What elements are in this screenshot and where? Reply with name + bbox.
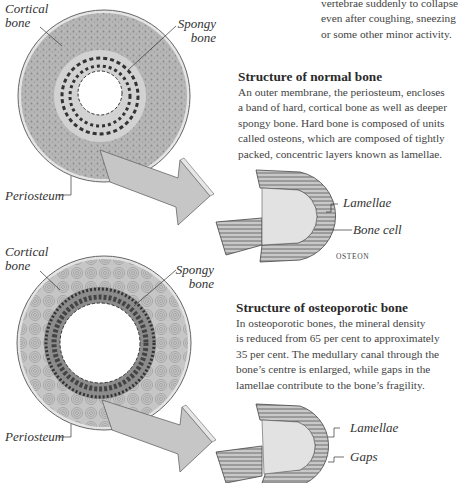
label-cortical-bone-osteoporotic: Cortical bone xyxy=(5,245,48,273)
label-bone-cell: Bone cell xyxy=(353,223,402,237)
body-line: In osteoporotic bones, the mineral densi… xyxy=(236,316,462,331)
intro-line: even after coughing, sneezing xyxy=(321,11,462,26)
label-spongy-bone: Spongy bone xyxy=(160,17,216,45)
illustrations xyxy=(0,0,462,483)
label-spongy-bone-osteoporotic: Spongy bone xyxy=(158,263,214,291)
body-line: packed, concentric layers known as lamel… xyxy=(238,147,462,162)
label-periosteum-osteoporotic: Periosteum xyxy=(5,430,64,444)
body-line: called osteons, which are composed of ti… xyxy=(238,131,462,146)
body-line: An outer membrane, the periosteum, enclo… xyxy=(238,85,462,100)
body-line: spongy bone. Hard bone is composed of un… xyxy=(238,116,462,131)
label-gaps: Gaps xyxy=(350,450,377,464)
label-lamellae-osteoporotic: Lamellae xyxy=(350,421,398,435)
label-line: Spongy xyxy=(158,263,214,277)
osteoporotic-bone-description: In osteoporotic bones, the mineral densi… xyxy=(236,316,462,393)
body-line: is reduced from 65 per cent to approxima… xyxy=(236,331,462,346)
intro-line: vertebrae suddenly to collapse xyxy=(321,0,462,11)
label-periosteum: Periosteum xyxy=(5,189,64,203)
label-line: bone xyxy=(158,277,214,291)
normal-bone-description: An outer membrane, the periosteum, enclo… xyxy=(238,85,462,162)
caption-osteon: OSTEON xyxy=(336,252,369,261)
label-line: Spongy xyxy=(160,17,216,31)
body-line: a band of hard, cortical bone as well as… xyxy=(238,100,462,115)
heading-osteoporotic-bone: Structure of osteoporotic bone xyxy=(236,300,408,316)
intro-fragment: vertebrae suddenly to collapse even afte… xyxy=(321,0,462,42)
intro-line: or some other minor activity. xyxy=(321,27,462,42)
label-line: Cortical xyxy=(5,2,48,16)
osteoporotic-osteon-illustration xyxy=(216,404,329,483)
body-line: 35 per cent. The medullary canal through… xyxy=(236,347,462,362)
body-line: lamellae contribute to the bone’s fragil… xyxy=(236,378,462,393)
label-cortical-bone: Cortical bone xyxy=(5,2,48,30)
label-line: bone xyxy=(5,16,48,30)
label-line: Cortical xyxy=(5,245,48,259)
label-line: bone xyxy=(5,259,48,273)
label-line: bone xyxy=(160,31,216,45)
heading-normal-bone: Structure of normal bone xyxy=(238,69,382,85)
body-line: bone’s centre is enlarged, while gaps in… xyxy=(236,362,462,377)
normal-osteon-illustration xyxy=(216,170,336,262)
label-lamellae: Lamellae xyxy=(343,196,391,210)
